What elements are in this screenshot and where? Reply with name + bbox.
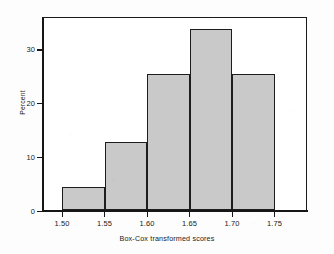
y-tick-label-10: 10 [26,154,35,162]
y-tick-label-20: 20 [26,100,35,108]
y-tick-label-30: 30 [26,46,35,54]
histogram-bar-2 [105,142,148,210]
y-axis-line [42,17,44,212]
x-tick-label-1.70: 1.70 [225,220,240,228]
x-tick-label-1.65: 1.65 [182,220,197,228]
plot-area-frame [43,17,307,211]
x-tick-1.75 [274,211,275,217]
x-tick-1.65 [189,211,190,217]
y-tick-20 [37,103,43,104]
x-axis-line [42,210,308,212]
histogram-bar-4 [190,29,233,210]
x-axis-title: Box-Cox transformed scores [0,234,334,243]
y-tick-10 [37,157,43,158]
y-tick-label-0: 0 [31,208,35,216]
histogram-bar-5 [232,74,275,210]
y-tick-0 [37,211,43,212]
x-tick-1.55 [104,211,105,217]
y-tick-30 [37,49,43,50]
x-tick-label-1.55: 1.55 [97,220,112,228]
x-tick-1.60 [147,211,148,217]
x-tick-label-1.50: 1.50 [55,220,70,228]
x-tick-label-1.60: 1.60 [140,220,155,228]
x-tick-1.50 [62,211,63,217]
x-tick-1.70 [232,211,233,217]
histogram-bar-3 [147,74,190,210]
x-tick-label-1.75: 1.75 [267,220,282,228]
y-axis-title: Percent [19,73,26,133]
histogram-bar-1 [62,187,105,210]
histogram-figure: 0 10 20 30 1.50 1.55 1.60 1.65 1.70 1.75… [0,0,334,254]
